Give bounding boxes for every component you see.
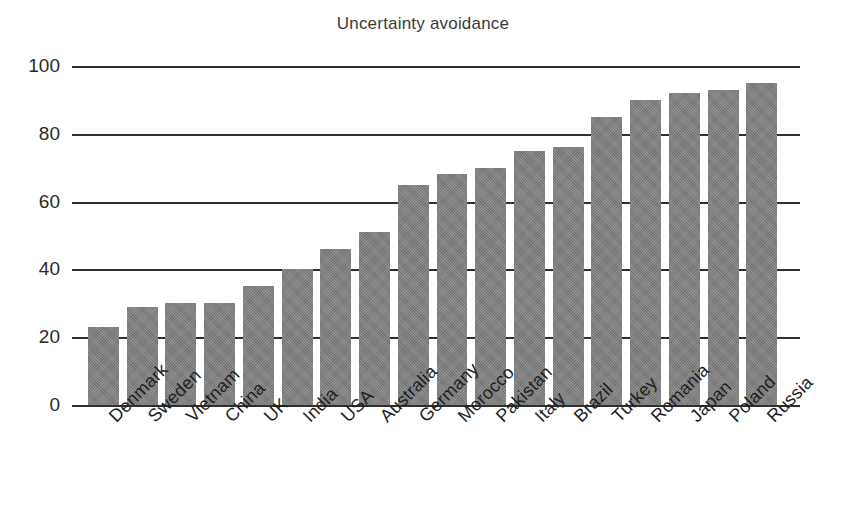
bar (88, 327, 119, 405)
y-tick-label: 100 (0, 55, 60, 77)
gridline-100 (72, 66, 800, 68)
bar (553, 147, 584, 405)
bar (669, 93, 700, 405)
y-tick-label: 40 (0, 258, 60, 280)
y-tick-label: 0 (0, 394, 60, 416)
bar (746, 83, 777, 405)
bar (320, 249, 351, 405)
bar (282, 269, 313, 405)
plot-area: 020406080100 (88, 66, 785, 405)
y-tick-label: 20 (0, 326, 60, 348)
bar (708, 90, 739, 405)
x-axis-tick-labels: DenmarkSwedenVietnamChinaUKIndiaUSAAustr… (88, 412, 846, 532)
bar (630, 100, 661, 405)
y-tick-label: 80 (0, 123, 60, 145)
chart-title: Uncertainty avoidance (0, 14, 846, 34)
y-tick-label: 60 (0, 191, 60, 213)
bar (359, 232, 390, 405)
uncertainty-avoidance-bar-chart: Uncertainty avoidance 020406080100 Denma… (0, 0, 846, 532)
bar (591, 117, 622, 405)
